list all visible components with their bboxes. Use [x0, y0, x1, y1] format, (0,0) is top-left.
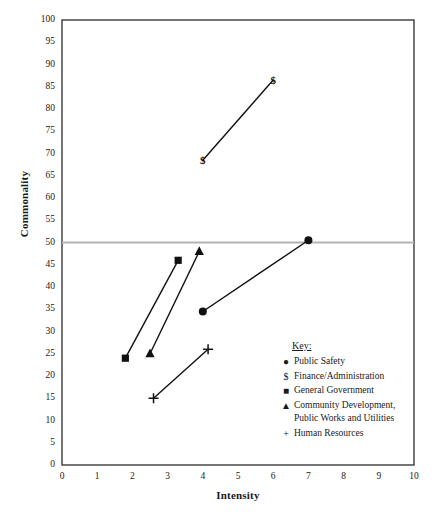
data-point-dollar: $ — [270, 74, 276, 86]
scatter-chart: Commonality Intensity 051015202530354045… — [0, 0, 435, 515]
series-connector — [154, 349, 209, 398]
series-connector — [203, 80, 273, 160]
legend-marker-icon: ■ — [278, 385, 294, 396]
legend-item-label: Public Safety — [294, 356, 345, 367]
legend-item-label: General Government — [294, 385, 374, 396]
legend-item-label-line2: Public Works and Utilities — [294, 413, 418, 424]
data-point-circle — [199, 307, 207, 315]
legend-item-label: Finance/Administration — [294, 371, 384, 382]
legend-item: ▲Community Development, — [278, 400, 418, 411]
legend-marker-icon: ● — [278, 356, 294, 367]
legend-item: ●Public Safety — [278, 356, 418, 367]
data-point-triangle — [195, 246, 204, 255]
legend: Key: ●Public Safety$Finance/Administrati… — [278, 340, 418, 442]
data-point-circle — [304, 236, 312, 244]
data-point-triangle — [145, 349, 154, 358]
data-point-dollar: $ — [200, 154, 206, 166]
legend-item: $Finance/Administration — [278, 371, 418, 382]
legend-item-label: Community Development, — [294, 400, 395, 411]
legend-marker-icon: $ — [278, 371, 294, 382]
legend-item: ■General Government — [278, 385, 418, 396]
data-point-square — [175, 257, 182, 264]
legend-item: +Human Resources — [278, 428, 418, 439]
legend-item-label: Human Resources — [294, 428, 363, 439]
series-connector — [125, 260, 178, 358]
legend-title: Key: — [292, 340, 418, 351]
series-connector — [203, 240, 309, 311]
data-point-square — [122, 355, 129, 362]
legend-marker-icon: + — [278, 428, 294, 439]
legend-marker-icon: ▲ — [278, 400, 294, 411]
